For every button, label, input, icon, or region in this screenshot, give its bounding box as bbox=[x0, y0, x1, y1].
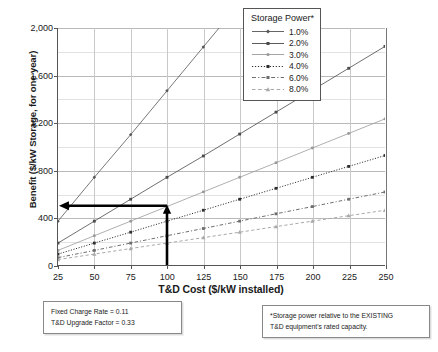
data-point bbox=[275, 111, 278, 114]
series-line bbox=[58, 0, 385, 221]
legend-label: 4.0% bbox=[289, 61, 308, 71]
gridline-vertical bbox=[386, 28, 387, 265]
legend-swatch bbox=[250, 49, 286, 60]
legend-item-30[interactable]: 3.0% bbox=[250, 49, 314, 61]
series-10 bbox=[56, 0, 385, 223]
x-axis-tick-mark bbox=[386, 265, 387, 269]
legend-label: 3.0% bbox=[289, 50, 308, 60]
data-point bbox=[93, 220, 96, 223]
data-point bbox=[266, 53, 269, 56]
x-axis-tick-mark bbox=[131, 265, 132, 269]
legend-title: Storage Power* bbox=[251, 13, 314, 23]
legend-swatch bbox=[250, 38, 286, 49]
x-axis-tick-mark bbox=[240, 265, 241, 269]
data-point bbox=[166, 176, 169, 179]
data-point bbox=[347, 132, 350, 135]
series-line bbox=[58, 192, 385, 258]
data-point bbox=[238, 133, 241, 136]
series-80 bbox=[56, 208, 387, 261]
series-line bbox=[58, 119, 385, 251]
footnote-line-2: T&D equipment's rated capacity. bbox=[270, 322, 422, 333]
data-point bbox=[266, 42, 269, 45]
legend-item-60[interactable]: 6.0% bbox=[250, 72, 314, 84]
data-point bbox=[347, 198, 350, 201]
data-point bbox=[202, 227, 205, 230]
data-point bbox=[129, 231, 132, 234]
plot-area: 04008001,2001,6002,000 25507510012515017… bbox=[57, 28, 385, 266]
data-point bbox=[93, 234, 96, 237]
data-point bbox=[93, 249, 96, 252]
chart-figure: Benefit ($/kW Storage, for one year) T&D… bbox=[0, 0, 438, 352]
data-point bbox=[275, 212, 278, 215]
data-point bbox=[347, 165, 350, 168]
data-point bbox=[311, 205, 314, 208]
data-point bbox=[311, 147, 314, 150]
x-axis-title: T&D Cost ($/kW installed) bbox=[57, 283, 385, 295]
legend-swatch bbox=[250, 26, 286, 37]
legend-swatch bbox=[250, 72, 286, 83]
data-point bbox=[57, 242, 60, 245]
series-layer bbox=[58, 28, 385, 265]
series-line bbox=[58, 46, 385, 243]
data-point bbox=[129, 198, 132, 201]
legend-swatch bbox=[250, 84, 286, 95]
series-30 bbox=[57, 117, 387, 251]
x-axis-tick-mark bbox=[58, 265, 59, 269]
legend-swatch bbox=[250, 61, 286, 72]
legend-label: 8.0% bbox=[289, 84, 308, 94]
data-point bbox=[57, 253, 60, 256]
x-axis-tick-mark bbox=[167, 265, 168, 269]
y-axis-title: Benefit ($/kW Storage, for one year) bbox=[27, 30, 38, 230]
data-point bbox=[238, 220, 241, 223]
x-axis-tick-mark bbox=[277, 265, 278, 269]
data-point bbox=[347, 67, 350, 70]
note-fixed-charge-rate: Fixed Charge Rate = 0.11 bbox=[51, 307, 174, 318]
legend-rows: 1.0%2.0%3.0%4.0%6.0%8.0% bbox=[250, 26, 314, 95]
data-point bbox=[202, 209, 205, 212]
data-point bbox=[238, 198, 241, 201]
data-point bbox=[202, 190, 205, 193]
series-line bbox=[58, 210, 385, 259]
guide-arrow-left bbox=[59, 201, 69, 210]
legend-label: 6.0% bbox=[289, 73, 308, 83]
legend-item-40[interactable]: 4.0% bbox=[250, 61, 314, 73]
note-box-assumptions: Fixed Charge Rate = 0.11 T&D Upgrade Fac… bbox=[43, 301, 182, 334]
data-point bbox=[93, 242, 96, 245]
data-point bbox=[57, 249, 60, 252]
note-td-upgrade-factor: T&D Upgrade Factor = 0.33 bbox=[51, 318, 174, 329]
series-60 bbox=[57, 191, 387, 259]
data-point bbox=[275, 161, 278, 164]
footnote-line-1: *Storage power relative to the EXISTING bbox=[270, 311, 422, 322]
legend-item-10[interactable]: 1.0% bbox=[250, 26, 314, 38]
note-box-footnote: *Storage power relative to the EXISTING … bbox=[262, 305, 430, 338]
series-20 bbox=[57, 45, 387, 245]
legend-label: 1.0% bbox=[289, 27, 308, 37]
data-point bbox=[266, 65, 269, 68]
plot-inner: 04008001,2001,6002,000 25507510012515017… bbox=[58, 28, 385, 265]
legend-item-20[interactable]: 2.0% bbox=[250, 38, 314, 50]
legend: Storage Power* 1.0%2.0%3.0%4.0%6.0%8.0% bbox=[243, 8, 321, 101]
reading-guide bbox=[59, 201, 171, 265]
x-axis-tick-mark bbox=[94, 265, 95, 269]
x-axis-tick-mark bbox=[313, 265, 314, 269]
legend-label: 2.0% bbox=[289, 38, 308, 48]
data-point bbox=[129, 220, 132, 223]
data-point bbox=[311, 176, 314, 179]
x-axis-tick-mark bbox=[204, 265, 205, 269]
data-point bbox=[202, 155, 205, 158]
data-point bbox=[266, 76, 269, 79]
data-point bbox=[266, 30, 270, 34]
legend-item-80[interactable]: 8.0% bbox=[250, 84, 314, 96]
data-point bbox=[238, 176, 241, 179]
data-point bbox=[275, 187, 278, 190]
x-axis-tick-mark bbox=[350, 265, 351, 269]
data-point bbox=[129, 242, 132, 245]
